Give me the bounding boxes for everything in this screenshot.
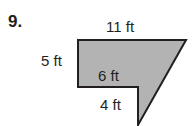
- label-inner-height: 4 ft: [100, 96, 121, 113]
- label-left-height: 5 ft: [41, 52, 62, 69]
- composite-figure: [0, 0, 193, 126]
- label-inner-width: 6 ft: [98, 67, 119, 84]
- trapezoid-shape: [78, 40, 186, 125]
- label-top-length: 11 ft: [106, 18, 134, 35]
